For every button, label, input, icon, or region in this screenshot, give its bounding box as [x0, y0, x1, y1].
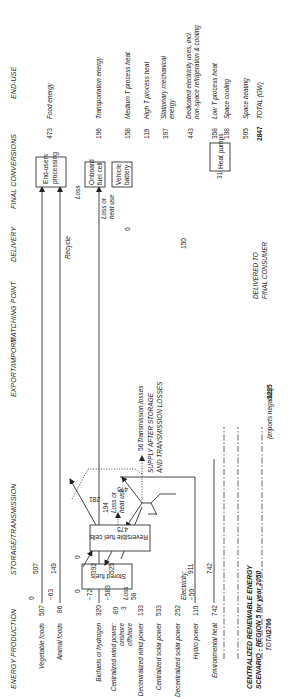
end-users-label2: processing: [51, 152, 59, 184]
header-export: EXPORT/IMPORT: [10, 337, 17, 397]
cells-loss-value: 194: [102, 502, 109, 513]
production-labels: Vegetable foods 507 Animal foods 86 Biof…: [38, 605, 218, 697]
vehicle-label2: battery: [123, 164, 131, 185]
enduse-total-value: 2847: [256, 126, 263, 141]
prod-value-decentral-wind: 133: [137, 605, 144, 616]
export-loss-label: Loss: [122, 586, 129, 600]
onboard-label2: fuel cell: [96, 162, 103, 185]
end-users-label1: End-users: [42, 153, 49, 184]
prod-label-wind: Centralized wind power:: [110, 623, 118, 691]
supply-after-storage-1: SUPPLY AFTER STORAGE: [147, 392, 154, 473]
prod-label-env-heat: Environmental heat: [211, 623, 218, 678]
matching-value-5: 742: [206, 563, 213, 574]
header-enduse: END-USE: [10, 67, 17, 99]
enduse-label-medt: Medium T process heat: [124, 52, 132, 119]
enduse-label-lowt: Low T process heat: [211, 63, 219, 119]
export-value-1: −63: [47, 588, 54, 600]
scenario-title: CENTRALIZED RENEWABLE ENERGY SCENARIO - …: [246, 564, 272, 689]
matching-value-0: 507: [32, 563, 39, 574]
prod-label-hydro: Hydro power: [192, 622, 200, 659]
reversible-fuel-cells-label: Reversible fuel cells: [89, 534, 148, 541]
enduse-label-stationary: Stationary mechanical: [160, 56, 168, 119]
header-final-conversions: FINAL CONVERSIONS: [10, 134, 17, 209]
prod-value-hydro: 110: [192, 605, 199, 616]
prod-label-animal: Animal foods: [56, 622, 63, 661]
header-matching: MATCHING POINT: [10, 281, 17, 343]
enduse-label-dedicated2: non-space refrigeration & cooling: [193, 25, 201, 119]
matching-value-1: 149: [50, 563, 57, 574]
enduse-label-transport: Transportation energy: [95, 56, 103, 119]
prod-label-vegetable: Vegetable foods: [38, 622, 46, 669]
matching-value-2: 392: [90, 563, 97, 574]
header-production: ENERGY PRODUCTION: [10, 608, 17, 689]
supply-after-storage-2: AND TRANSMISSION LOSSES: [156, 381, 163, 474]
delivery-150: 150: [180, 238, 187, 249]
cells-loss-label2: heat use: [118, 488, 125, 513]
delivered-to-2: FINAL CONSUMER: [261, 242, 268, 299]
prod-value-animal: 86: [56, 605, 63, 613]
enduse-value-transport: 196: [95, 128, 102, 139]
transmission-loss-value: 56: [137, 443, 144, 451]
title-line1: CENTRALIZED RENEWABLE ENERGY: [246, 564, 253, 689]
stored-out-value: 0: [74, 555, 81, 559]
header-storage: STORAGE/TRANSMISSION: [10, 483, 17, 575]
export-value-3: −583: [104, 585, 111, 600]
cells-loss-label1: Loss or: [110, 491, 117, 513]
supply-total: 3225: [266, 384, 273, 399]
to-cells-value: 475: [117, 526, 128, 533]
onboard-label1: Onboard: [88, 159, 95, 185]
cells-out-value: 281: [89, 496, 100, 503]
enduse-column: 473 Food energy 196 Transportation energ…: [46, 25, 264, 141]
enduse-label-dedicated: Dedicated electricity uses, incl.: [185, 32, 193, 119]
final-conversions-section: End-users processing Onboard fuel cell V…: [36, 133, 230, 187]
export-value-2: −72: [86, 588, 93, 600]
enduse-label-stationary2: energy: [168, 99, 176, 119]
prod-value-central-solar: 533: [155, 605, 162, 616]
column-headers: ENERGY PRODUCTION STORAGE/TRANSMISSION E…: [10, 67, 17, 689]
prod-label-decentral-wind: Decentralized wind power: [137, 622, 145, 696]
enduse-value-dedicated: 443: [187, 128, 194, 139]
vehicle-label1: Vehicle: [115, 163, 122, 185]
delivery-loss-heat-1: Loss or: [100, 197, 107, 219]
prod-value-onshore: 80: [112, 606, 119, 614]
energy-flow-diagram: ENERGY PRODUCTION STORAGE/TRANSMISSION E…: [0, 0, 297, 699]
transmission-loss-label: Transmission losses: [137, 385, 144, 443]
enduse-label-heating: Space heating: [242, 78, 250, 119]
title-total-label: TOTAL: [265, 631, 272, 651]
storage-section: Stored fuels Reversible fuel cells 0 0 4…: [70, 381, 163, 593]
matching-value-4: 911: [187, 563, 194, 574]
stored-fuels-label: Stored fuels: [90, 573, 126, 580]
enduse-value-stationary: 397: [162, 128, 169, 139]
enduse-value-lowt: 358: [211, 128, 218, 139]
header-delivery: DELIVERY: [10, 226, 17, 262]
enduse-total-label: TOTAL (GW): [256, 82, 264, 119]
enduse-value-cooling: 198: [223, 128, 230, 139]
title-total-value: 2766: [265, 618, 272, 633]
export-value-0: 0: [28, 596, 35, 600]
export-value-4: −50: [188, 588, 195, 600]
delivery-zero: 0: [124, 227, 131, 231]
prod-value-biofuels: 320: [95, 605, 102, 616]
prod-value-vegetable: 507: [38, 605, 45, 616]
enduse-label-cooling: Space cooling: [223, 78, 231, 119]
delivered-to-1: DELIVERED TO: [252, 252, 259, 299]
enduse-value-heating: 505: [242, 128, 249, 139]
recycle-label: Recycle: [64, 236, 72, 259]
enduse-label-hight: High T process heat: [143, 62, 151, 119]
delivery-loss-heat-2: heat use: [108, 194, 115, 219]
prod-value-decentral-solar: 252: [174, 605, 181, 616]
electricity-label: Electricity:: [180, 571, 188, 600]
prod-value-offshore: 3: [120, 606, 127, 610]
enduse-label-food: Food energy: [46, 82, 54, 119]
enduse-value-medt: 158: [124, 128, 131, 139]
prod-label-onshore: onshore: [118, 623, 125, 647]
enduse-value-food: 473: [46, 128, 53, 139]
prod-label-biofuels: Biofuels or hydrogen: [95, 623, 103, 682]
prod-label-offshore: offshore: [126, 623, 133, 647]
stored-in-value: 0: [74, 589, 81, 593]
loss-label: Loss: [74, 185, 81, 199]
prod-value-env-heat: 742: [211, 605, 218, 616]
prod-label-central-solar: Centralized solar power: [155, 622, 163, 690]
export-loss-value: 58: [130, 592, 137, 600]
prod-label-decentral-solar: Decentralized solar power: [174, 622, 182, 697]
